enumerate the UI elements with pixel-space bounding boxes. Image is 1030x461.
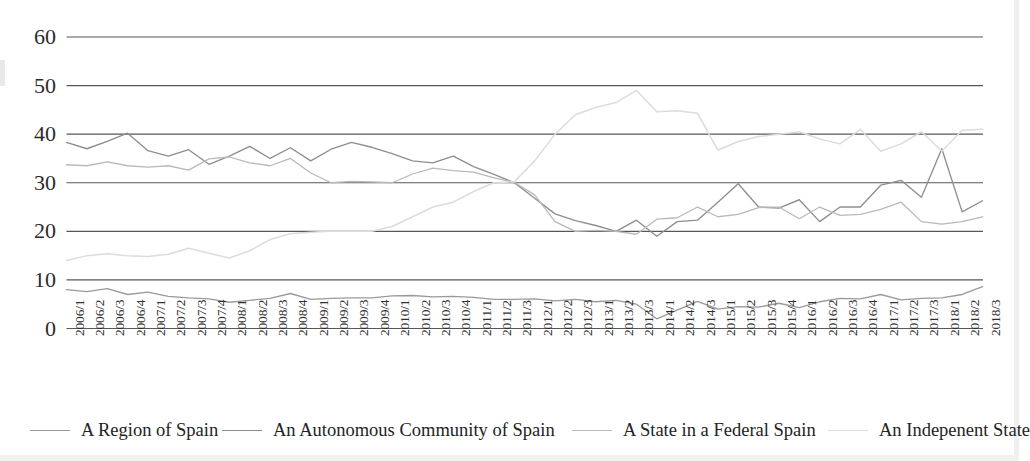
x-tick-label: 2013/2	[621, 300, 637, 336]
series-line	[67, 157, 983, 234]
x-tick-label: 2008/4	[295, 300, 311, 336]
x-tick-label: 2010/1	[397, 300, 413, 336]
x-tick-label: 2009/2	[336, 300, 352, 336]
legend-item[interactable]: A State in a Federal Spain	[572, 420, 816, 441]
x-tick-label: 2009/4	[377, 300, 393, 336]
x-tick-label: 2017/2	[906, 300, 922, 336]
x-tick-label: 2006/3	[112, 300, 128, 336]
legend-label: An Autonomous Community of Spain	[273, 420, 555, 441]
x-tick-label: 2009/3	[356, 300, 372, 336]
x-tick-label: 2013/1	[601, 300, 617, 336]
x-tick-label: 2010/4	[458, 300, 474, 336]
x-tick-label: 2007/2	[173, 300, 189, 336]
legend-color-swatch	[828, 430, 868, 431]
x-tick-label: 2015/1	[723, 300, 739, 336]
x-tick-label: 2012/2	[560, 300, 576, 336]
x-tick-label: 2016/4	[865, 300, 881, 336]
legend-color-swatch	[572, 430, 612, 431]
series-lines	[67, 90, 983, 318]
legend-color-swatch	[30, 430, 70, 431]
x-tick-label: 2010/3	[438, 300, 454, 336]
x-tick-label: 2008/2	[255, 300, 271, 336]
x-tick-label: 2012/3	[580, 300, 596, 336]
x-tick-label: 2006/4	[133, 300, 149, 336]
legend-label: A State in a Federal Spain	[623, 420, 816, 441]
legend-color-swatch	[222, 430, 262, 431]
x-tick-label: 2007/1	[153, 300, 169, 336]
x-tick-label: 2008/3	[275, 300, 291, 336]
x-tick-label: 2016/3	[845, 300, 861, 336]
x-tick-label: 2016/2	[825, 300, 841, 336]
series-line	[67, 90, 983, 260]
x-tick-label: 2015/4	[784, 300, 800, 336]
legend-label: An Indepenent State	[879, 420, 1030, 441]
legend-item[interactable]: A Region of Spain	[30, 420, 218, 441]
x-tick-label: 2018/1	[947, 300, 963, 336]
legend-item[interactable]: An Autonomous Community of Spain	[222, 420, 555, 441]
x-tick-label: 2007/4	[214, 300, 230, 336]
x-tick-label: 2006/2	[92, 300, 108, 336]
y-tick-label: 10	[12, 269, 56, 291]
y-tick-label: 0	[12, 318, 56, 340]
x-tick-label: 2012/1	[540, 300, 556, 336]
y-tick-label: 20	[12, 220, 56, 242]
x-tick-label: 2013/3	[641, 300, 657, 336]
x-tick-label: 2014/2	[682, 300, 698, 336]
x-tick-label: 2017/1	[886, 300, 902, 336]
chart-legend: A Region of SpainAn Autonomous Community…	[0, 412, 1019, 446]
x-tick-label: 2015/2	[743, 300, 759, 336]
x-tick-label: 2011/3	[519, 300, 535, 336]
legend-label: A Region of Spain	[81, 420, 218, 441]
x-tick-label: 2009/1	[316, 300, 332, 336]
x-tick-label: 2016/1	[804, 300, 820, 336]
x-tick-label: 2008/1	[234, 300, 250, 336]
y-tick-label: 60	[12, 26, 56, 48]
x-tick-label: 2018/2	[967, 300, 983, 336]
y-tick-label: 30	[12, 172, 56, 194]
x-tick-label: 2010/2	[418, 300, 434, 336]
x-tick-label: 2011/2	[499, 300, 515, 336]
x-tick-label: 2018/3	[988, 300, 1004, 336]
x-tick-label: 2006/1	[72, 300, 88, 336]
gridlines	[67, 37, 984, 329]
x-tick-label: 2007/3	[194, 300, 210, 336]
x-tick-label: 2015/3	[764, 300, 780, 336]
y-tick-label: 40	[12, 123, 56, 145]
legend-item[interactable]: An Indepenent State	[828, 420, 1030, 441]
x-tick-label: 2014/1	[662, 300, 678, 336]
x-tick-label: 2011/1	[479, 300, 495, 336]
series-line	[67, 133, 983, 236]
x-tick-label: 2017/3	[926, 300, 942, 336]
x-tick-label: 2014/3	[703, 300, 719, 336]
y-tick-label: 50	[12, 75, 56, 97]
